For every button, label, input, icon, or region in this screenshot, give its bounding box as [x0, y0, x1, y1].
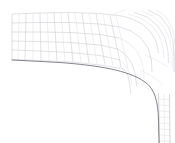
wall-boundary-curve [12, 60, 159, 143]
mesh-canvas [0, 0, 175, 143]
right-fan-block-grid [112, 10, 175, 97]
mesh-figure [0, 0, 175, 143]
outlet-strip-grid [159, 93, 171, 143]
